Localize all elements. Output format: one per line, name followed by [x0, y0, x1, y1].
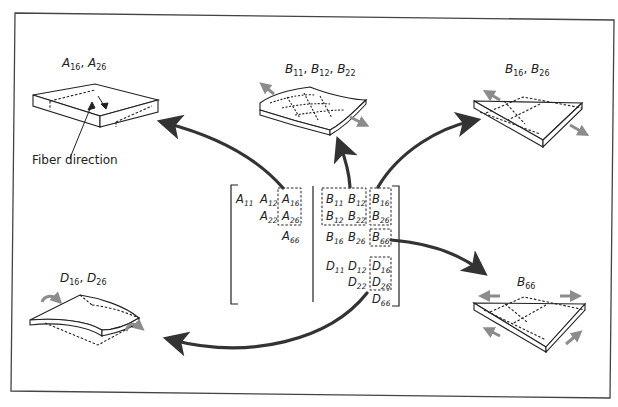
label-d16-d26: D16, D26 — [60, 271, 107, 287]
panel-a16-a26 — [33, 84, 158, 127]
fiber-direction-label: Fiber direction — [32, 153, 118, 167]
matrix-b12: B12 — [348, 192, 365, 208]
matrix-d12: D12 — [348, 259, 366, 275]
panel-d16-d26 — [30, 295, 140, 345]
label-b11-b12-b22: B11, B12, B22 — [285, 62, 356, 78]
matrix-b22: B22 — [348, 209, 365, 225]
matrix-d66: D66 — [372, 292, 390, 308]
matrix-d11: D11 — [326, 259, 344, 275]
matrix-d16: D16 — [372, 259, 390, 275]
panel-b11-b12-b22 — [260, 87, 366, 135]
matrix-b11: B11 — [326, 192, 343, 208]
matrix-a66: A66 — [282, 229, 299, 245]
matrix-b66: B66 — [372, 230, 389, 246]
matrix-d22: D22 — [348, 275, 366, 291]
label-b16-b26: B16, B26 — [505, 62, 549, 78]
matrix-d26: D26 — [372, 275, 390, 291]
coupling-arrows — [166, 121, 480, 348]
label-a16-a26: A16, A26 — [62, 56, 106, 72]
matrix-a11: A11 — [236, 192, 253, 208]
label-b66: B66 — [517, 275, 535, 291]
matrix-b26: B26 — [372, 209, 389, 225]
matrix-b16-lower: B16 — [326, 230, 343, 246]
matrix-a16: A16 — [282, 192, 299, 208]
matrix-b12-lower: B12 — [326, 209, 343, 225]
matrix-a26: A26 — [282, 209, 299, 225]
matrix-b26-lower: B26 — [348, 230, 365, 246]
matrix-a22: A22 — [260, 209, 277, 225]
matrix-b16: B16 — [372, 192, 389, 208]
diagram-canvas: A16, A26 Fiber direction B11, B12, B22 B… — [0, 0, 618, 407]
matrix-a12: A12 — [260, 192, 277, 208]
panel-b16-b26 — [474, 97, 582, 147]
